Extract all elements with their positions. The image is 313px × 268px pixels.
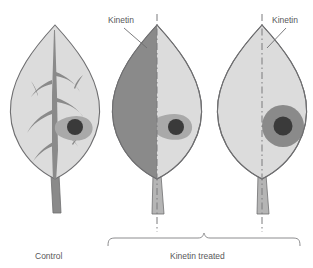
kinetin-label-right: Kinetin [272,15,298,25]
kinetin-label-middle: Kinetin [108,15,134,25]
kinetin-spot-leaf-spot-core [274,117,293,136]
caption-kinetin-treated: Kinetin treated [170,251,225,261]
control-leaf-petiole [51,175,61,213]
kinetin-leaf-senescence-figure: Kinetin Kinetin Control Kinetin treated [0,0,313,268]
control-leaf-spot-core [67,119,83,135]
kinetin-half-leaf-spot-core [168,119,184,135]
caption-control: Control [35,251,63,261]
